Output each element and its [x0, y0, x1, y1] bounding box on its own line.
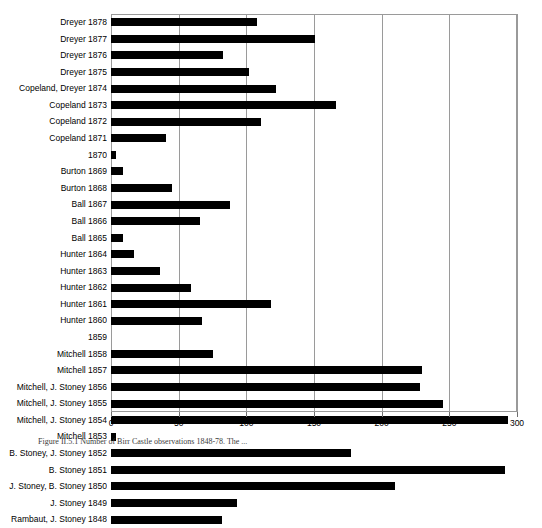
bar-row	[111, 163, 517, 180]
x-axis-tick-mark	[517, 412, 518, 417]
bar	[111, 482, 395, 490]
bar	[111, 68, 249, 76]
bar-row	[111, 263, 517, 280]
bar	[111, 400, 443, 408]
y-axis-label: Ball 1867	[0, 196, 107, 213]
x-axis-tick-mark	[111, 412, 112, 417]
y-axis-label: 1859	[0, 329, 107, 346]
bar-row	[111, 31, 517, 48]
y-axis-label: 1870	[0, 147, 107, 164]
y-axis-label: Hunter 1863	[0, 263, 107, 280]
y-axis-label: Copeland 1871	[0, 130, 107, 147]
figure-caption: Figure II.5.1 Number of Birr Castle obse…	[38, 437, 508, 446]
y-axis-label: Ball 1866	[0, 213, 107, 230]
y-axis-label: Hunter 1862	[0, 279, 107, 296]
bar	[111, 234, 123, 242]
y-axis-label: Dreyer 1875	[0, 64, 107, 81]
bar-row	[111, 180, 517, 197]
bar	[111, 250, 134, 258]
bar-row	[111, 97, 517, 114]
bar-row	[111, 213, 517, 230]
bar-row	[111, 395, 517, 412]
x-axis-tick-label: 150	[307, 418, 321, 428]
x-axis-tick-mark	[382, 412, 383, 417]
bar	[111, 284, 191, 292]
bar	[111, 101, 336, 109]
bar-rows	[111, 14, 517, 412]
bar	[111, 300, 271, 308]
bar-row	[111, 511, 517, 528]
y-axis-labels: Dreyer 1878Dreyer 1877Dreyer 1876Dreyer …	[0, 14, 107, 412]
y-axis-label: Copeland, Dreyer 1874	[0, 80, 107, 97]
bar	[111, 516, 222, 524]
y-axis-label: Dreyer 1876	[0, 47, 107, 64]
bar-row	[111, 113, 517, 130]
bar-row	[111, 196, 517, 213]
bar-row	[111, 147, 517, 164]
y-axis-label: Mitchell, J. Stoney 1855	[0, 395, 107, 412]
bar-row	[111, 478, 517, 495]
y-axis-label: Hunter 1860	[0, 312, 107, 329]
bar	[111, 118, 261, 126]
bar-row	[111, 445, 517, 462]
y-axis-label: Burton 1869	[0, 163, 107, 180]
bar-row	[111, 14, 517, 31]
bar-row	[111, 462, 517, 479]
bar	[111, 51, 223, 59]
bar	[111, 167, 123, 175]
x-axis-tick-mark	[449, 412, 450, 417]
x-axis-tick-label: 300	[510, 418, 524, 428]
y-axis-label: Burton 1868	[0, 180, 107, 197]
x-axis-tick-mark	[179, 412, 180, 417]
bar	[111, 350, 213, 358]
x-axis-tick-label: 200	[375, 418, 389, 428]
bar-row	[111, 329, 517, 346]
y-axis-label: J. Stoney 1849	[0, 495, 107, 512]
x-axis: 050100150200250300	[111, 412, 517, 434]
y-axis-label: J. Stoney, B. Stoney 1850	[0, 478, 107, 495]
bar-row	[111, 230, 517, 247]
bar	[111, 449, 351, 457]
bar-row	[111, 296, 517, 313]
x-axis-tick-label: 100	[239, 418, 253, 428]
bar-row	[111, 279, 517, 296]
x-axis-tick-label: 0	[109, 418, 114, 428]
y-axis-label: Mitchell 1857	[0, 362, 107, 379]
x-axis-tick-mark	[314, 412, 315, 417]
bar	[111, 151, 116, 159]
bar-row	[111, 47, 517, 64]
bar-row	[111, 346, 517, 363]
bar	[111, 383, 420, 391]
bar	[111, 317, 202, 325]
bar	[111, 499, 237, 507]
bar-row	[111, 64, 517, 81]
bar-row	[111, 80, 517, 97]
y-axis-label: Ball 1865	[0, 230, 107, 247]
y-axis-label: Mitchell, J. Stoney 1856	[0, 379, 107, 396]
bar	[111, 18, 257, 26]
plot-area	[111, 14, 517, 412]
x-axis-tick-label: 250	[442, 418, 456, 428]
y-axis-label: Rambaut, J. Stoney 1848	[0, 511, 107, 528]
bar-row	[111, 312, 517, 329]
y-axis-label: Mitchell 1858	[0, 346, 107, 363]
y-axis-label: Hunter 1861	[0, 296, 107, 313]
bar	[111, 217, 200, 225]
bar	[111, 184, 172, 192]
y-axis-label: Dreyer 1877	[0, 31, 107, 48]
y-axis-label: Hunter 1864	[0, 246, 107, 263]
y-axis-label: B. Stoney, J. Stoney 1852	[0, 445, 107, 462]
gridline-300	[517, 14, 518, 412]
bar	[111, 267, 160, 275]
bar-row	[111, 379, 517, 396]
bar	[111, 134, 166, 142]
x-axis-tick-label: 50	[174, 418, 183, 428]
bar	[111, 201, 230, 209]
bar-row	[111, 130, 517, 147]
x-axis-tick-mark	[246, 412, 247, 417]
y-axis-label: Dreyer 1878	[0, 14, 107, 31]
bar	[111, 366, 422, 374]
bar-row	[111, 495, 517, 512]
bar	[111, 85, 276, 93]
